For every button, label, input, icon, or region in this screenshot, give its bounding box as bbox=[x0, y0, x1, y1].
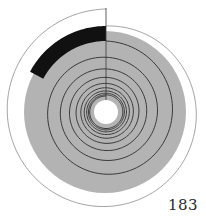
center-hole bbox=[94, 100, 118, 124]
spiral-diagram bbox=[0, 0, 206, 222]
page-number: 183 bbox=[168, 196, 198, 214]
